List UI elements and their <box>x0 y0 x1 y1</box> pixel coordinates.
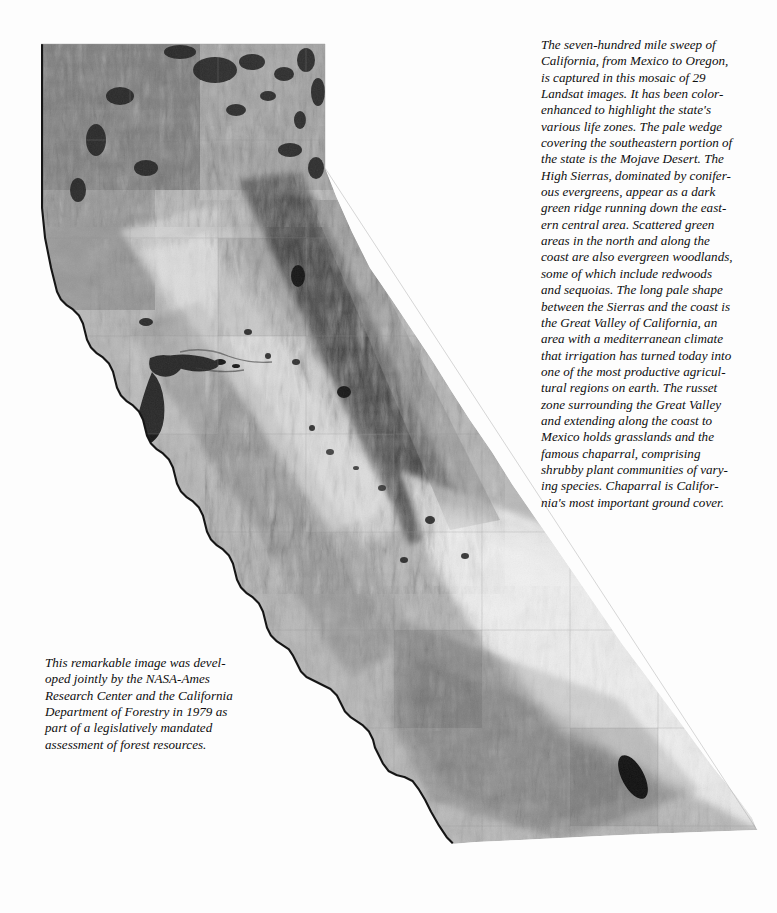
page-root: The seven-hundred mile sweep of Californ… <box>0 0 777 913</box>
development-credit: This remarkable image was devel- oped jo… <box>45 655 277 753</box>
landsat-mosaic-description: The seven-hundred mile sweep of Californ… <box>541 37 775 511</box>
